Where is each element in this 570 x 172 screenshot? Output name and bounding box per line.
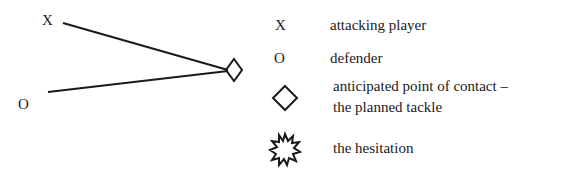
legend-label-attacking-player: attacking player [330,17,426,34]
legend-label-defender: defender [330,50,382,67]
legend-label-contact-line2: the planned tackle [333,99,442,116]
legend-diamond-icon [273,86,297,110]
contact-point-diamond-icon [226,59,242,81]
tackle-diagram: X O X attacking player O defender antici… [0,0,570,172]
legend-label-hesitation: the hesitation [333,140,413,157]
defender-marker: O [18,96,29,113]
legend-x-glyph: X [275,17,286,34]
legend-starburst-icon [270,134,300,165]
legend-label-contact-line1: anticipated point of contact – [333,78,508,95]
attacker-marker: X [42,12,53,29]
attacker-path-line [63,23,228,70]
legend-o-glyph: O [274,50,285,67]
defender-path-line [48,71,228,92]
